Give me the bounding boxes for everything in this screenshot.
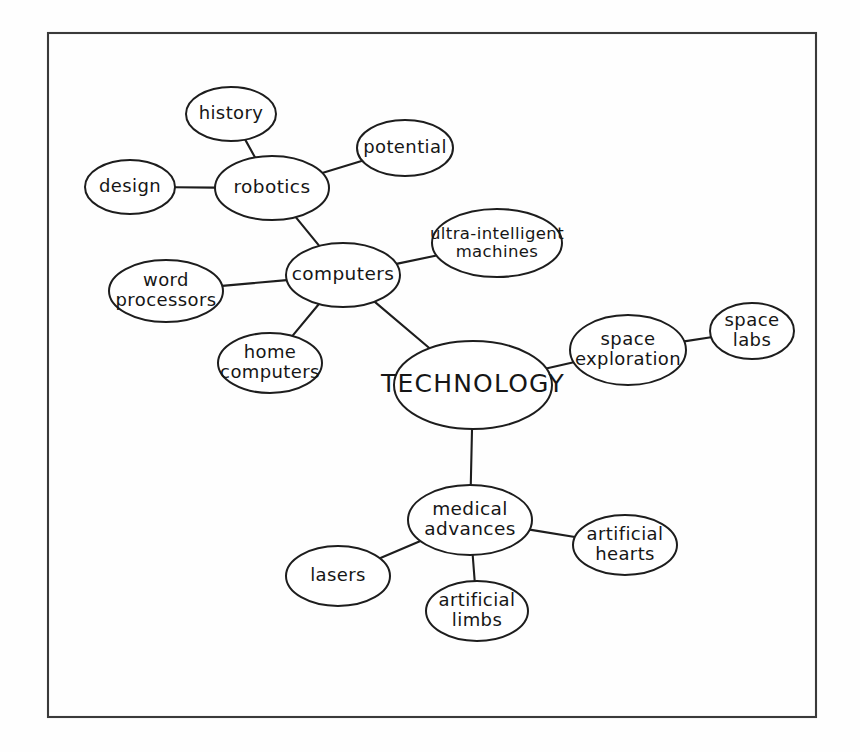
edge-computers-to-robotics — [296, 217, 320, 246]
node-label-history: history — [199, 102, 264, 123]
node-label-line: labs — [733, 329, 771, 350]
node-label-line: hearts — [595, 543, 655, 564]
edge-medical-advances-to-lasers — [380, 541, 421, 558]
node-label-space-labs: spacelabs — [725, 309, 780, 350]
node-label-technology: TECHNOLOGY — [380, 369, 565, 398]
node-technology[interactable]: TECHNOLOGY — [380, 341, 565, 429]
node-space-labs[interactable]: spacelabs — [710, 303, 794, 359]
node-potential[interactable]: potential — [357, 120, 453, 176]
node-label-line: ultra-intelligent — [430, 224, 564, 243]
node-label-line: limbs — [452, 609, 502, 630]
node-label-line: space — [601, 328, 656, 349]
edge-computers-to-home-computers — [292, 304, 318, 336]
node-label-line: TECHNOLOGY — [380, 369, 565, 398]
node-label-line: artificial — [587, 523, 664, 544]
node-label-line: computers — [292, 263, 394, 284]
mindmap-canvas: TECHNOLOGYcomputersspaceexplorationmedic… — [0, 0, 860, 752]
node-robotics[interactable]: robotics — [215, 156, 329, 220]
node-label-potential: potential — [363, 136, 447, 157]
node-medical-advances[interactable]: medicaladvances — [408, 485, 532, 555]
edge-robotics-to-potential — [322, 161, 362, 173]
node-label-line: artificial — [439, 589, 516, 610]
node-label-line: robotics — [234, 176, 311, 197]
node-label-line: computers — [220, 361, 320, 382]
node-word-processors[interactable]: wordprocessors — [109, 260, 223, 322]
node-label-line: home — [244, 341, 297, 362]
edge-space-exploration-to-space-labs — [684, 337, 711, 341]
edge-medical-advances-to-artificial-hearts — [530, 530, 575, 537]
edge-computers-to-ultra-intelligent-machines — [396, 256, 436, 264]
node-label-line: exploration — [575, 348, 681, 369]
node-computers[interactable]: computers — [286, 243, 400, 307]
node-lasers[interactable]: lasers — [286, 546, 390, 606]
node-label-line: advances — [424, 518, 515, 539]
node-label-line: word — [143, 269, 189, 290]
node-label-line: lasers — [310, 564, 366, 585]
edge-technology-to-space-exploration — [546, 362, 573, 368]
nodes-layer: TECHNOLOGYcomputersspaceexplorationmedic… — [85, 87, 794, 641]
node-label-line: processors — [116, 289, 217, 310]
mindmap-diagram: TECHNOLOGYcomputersspaceexplorationmedic… — [0, 0, 860, 752]
edge-robotics-to-history — [245, 140, 255, 158]
edge-computers-to-word-processors — [222, 280, 286, 286]
node-label-artificial-hearts: artificialhearts — [587, 523, 664, 564]
node-artificial-hearts[interactable]: artificialhearts — [573, 515, 677, 575]
node-history[interactable]: history — [186, 87, 276, 141]
node-label-computers: computers — [292, 263, 394, 284]
edge-technology-to-medical-advances — [471, 429, 472, 485]
node-ultra-intelligent-machines[interactable]: ultra-intelligentmachines — [430, 209, 564, 277]
node-label-line: potential — [363, 136, 447, 157]
node-label-medical-advances: medicaladvances — [424, 498, 515, 539]
node-label-design: design — [99, 175, 161, 196]
edge-medical-advances-to-artificial-limbs — [473, 555, 475, 581]
edge-technology-to-computers — [375, 302, 430, 349]
node-label-lasers: lasers — [310, 564, 366, 585]
node-label-robotics: robotics — [234, 176, 311, 197]
node-label-line: design — [99, 175, 161, 196]
node-label-line: space — [725, 309, 780, 330]
node-home-computers[interactable]: homecomputers — [218, 333, 322, 393]
node-label-line: medical — [432, 498, 508, 519]
node-label-line: history — [199, 102, 264, 123]
node-artificial-limbs[interactable]: artificiallimbs — [426, 581, 528, 641]
node-space-exploration[interactable]: spaceexploration — [570, 315, 686, 385]
node-design[interactable]: design — [85, 160, 175, 214]
node-label-line: machines — [456, 242, 539, 261]
